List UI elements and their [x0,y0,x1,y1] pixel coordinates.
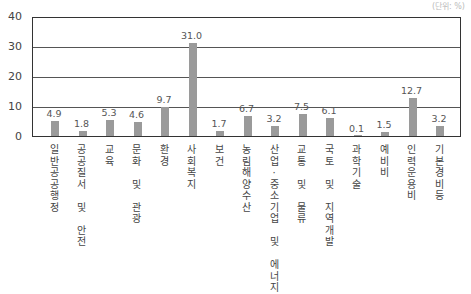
x-category-label: 환 경 [158,144,170,167]
value-label: 0.1 [342,123,372,134]
gridline [33,77,460,78]
y-tick-label: 0 [0,130,22,143]
bar [299,114,307,137]
value-label: 1.5 [369,119,399,130]
x-category-label: 문 화 및 관 광 [131,144,143,225]
bar [244,116,252,136]
value-label: 4.9 [39,108,69,119]
x-category-label: 기 본 경 비 등 [433,144,445,202]
bar [271,126,279,136]
value-label: 9.7 [149,94,179,105]
value-label: 1.7 [204,118,234,129]
y-tick-label: 10 [0,100,22,113]
x-category-label: 산 업 · 중 소 기 업 및 에 너 지 [268,144,280,294]
bar [106,120,114,136]
value-label: 4.6 [122,109,152,120]
x-category-label: 예 비 비 [378,144,390,179]
bar [354,135,362,136]
x-category-label: 사 회 복 지 [186,144,198,190]
bar [381,132,389,137]
bar [409,98,417,136]
value-label: 31.0 [177,30,207,41]
value-label: 1.8 [67,118,97,129]
y-tick-label: 20 [0,70,22,83]
bar [436,126,444,136]
x-category-label: 공 공 질 서 및 안 전 [76,144,88,248]
value-label: 7.5 [287,101,317,112]
x-category-label: 교 육 [103,144,115,167]
value-label: 5.3 [94,107,124,118]
x-category-label: 보 건 [213,144,225,167]
bar [161,107,169,136]
value-label: 12.7 [397,85,427,96]
gridline [33,47,460,48]
y-tick-label: 40 [0,10,22,23]
value-label: 6.7 [232,103,262,114]
value-label: 3.2 [259,113,289,124]
unit-label: (단위: %) [432,0,465,11]
bar [79,131,87,136]
y-tick-label: 30 [0,40,22,53]
x-category-label: 농 림 해 양 수 산 [241,144,253,213]
bar [216,131,224,136]
x-category-label: 과 학 기 술 [351,144,363,190]
x-category-label: 인 력 운 용 비 [406,144,418,202]
bar [51,121,59,136]
x-category-label: 일 반 공 공 행 정 [48,144,60,213]
x-category-label: 교 통 및 물 류 [296,144,308,225]
bar [326,118,334,136]
bar [189,43,197,136]
value-label: 3.2 [424,113,454,124]
x-category-label: 국 토 및 지 역 개 발 [323,144,335,248]
bar [134,122,142,136]
value-label: 6.1 [314,105,344,116]
